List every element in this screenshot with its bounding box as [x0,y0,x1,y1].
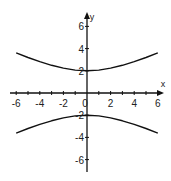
y-tick-label: -2 [75,110,84,121]
hyperbola-chart: -6-4-20246642-2-4-6xy [0,0,171,181]
x-tick-label: 4 [131,98,137,109]
y-tick-label: -4 [75,132,84,143]
axes [10,12,164,172]
x-tick-label: 0 [82,98,88,109]
tick-labels: -6-4-20246642-2-4-6xy [12,12,166,166]
x-tick-label: 2 [108,98,114,109]
y-tick-label: 2 [78,66,84,77]
y-tick-label: 6 [78,21,84,32]
y-tick-label: -6 [75,155,84,166]
x-tick-label: 6 [155,98,161,109]
y-axis-label: y [90,12,95,22]
x-tick-label: -4 [35,98,44,109]
y-tick-label: 4 [78,44,84,55]
x-axis-label: x [161,79,166,89]
x-tick-label: -6 [12,98,21,109]
x-tick-label: -2 [59,98,68,109]
